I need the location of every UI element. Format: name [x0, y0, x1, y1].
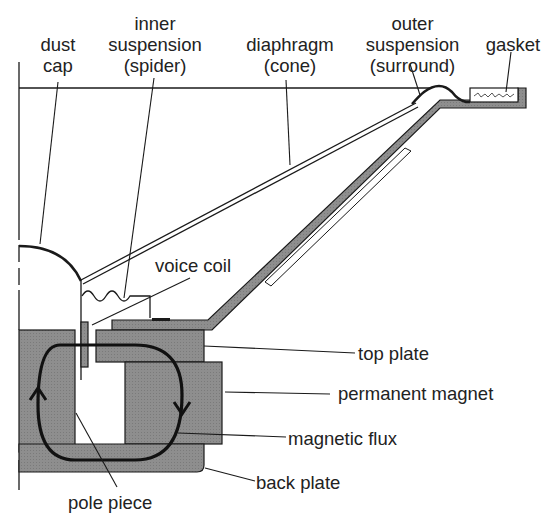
label-voice-coil: voice coil [155, 255, 231, 276]
dust-cap-part [19, 246, 81, 281]
basket-frame [112, 88, 526, 330]
pole-piece-part [19, 330, 75, 452]
label-top-plate: top plate [358, 343, 429, 364]
label-diaphragm: diaphragm (cone) [230, 34, 350, 76]
gasket-part [470, 88, 518, 102]
label-gasket: gasket [478, 34, 548, 55]
label-outer-suspension: outer suspension (surround) [355, 13, 470, 76]
label-dust-cap: dust cap [28, 34, 88, 76]
label-permanent-magnet: permanent magnet [338, 383, 493, 404]
speaker-cross-section [0, 0, 555, 524]
label-back-plate: back plate [256, 472, 340, 493]
label-magnetic-flux: magnetic flux [288, 428, 397, 449]
loudspeaker-diagram: dust cap inner suspension (spider) diaph… [0, 0, 555, 524]
label-inner-suspension: inner suspension (spider) [95, 13, 215, 76]
label-pole-piece: pole piece [68, 492, 152, 513]
